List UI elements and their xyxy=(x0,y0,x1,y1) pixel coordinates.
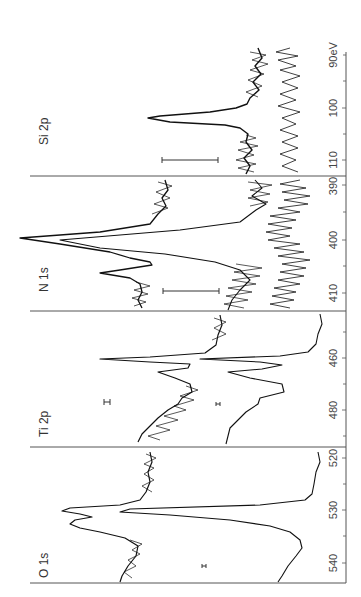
tick-520: 520 xyxy=(327,449,339,467)
label-ti2p: Ti 2p xyxy=(37,410,51,437)
label-o1s: O 1s xyxy=(37,553,51,578)
tick-90: 90eV xyxy=(327,41,339,67)
ti2p-upper-noise xyxy=(148,318,226,440)
panel-labels: Si 2p N 1s Ti 2p O 1s xyxy=(37,117,51,578)
n1s-middle-noise xyxy=(224,182,272,308)
o1s-upper-noise xyxy=(124,454,156,578)
tick-110: 110 xyxy=(327,151,339,169)
o1s-lower xyxy=(120,452,320,582)
tick-540: 540 xyxy=(327,554,339,572)
tick-530: 530 xyxy=(327,501,339,519)
xps-spectra-figure: 90eV 100 110 390 400 410 460 480 520 530… xyxy=(0,0,361,597)
spectra xyxy=(20,48,322,582)
label-n1s: N 1s xyxy=(37,267,51,292)
tick-100: 100 xyxy=(327,99,339,117)
tick-400: 400 xyxy=(327,231,339,249)
si2p-lower xyxy=(276,48,300,172)
o1s-upper xyxy=(62,452,152,582)
si2p-upper-noise xyxy=(236,52,268,172)
panel-dividers xyxy=(30,176,346,583)
n1s-bottom xyxy=(266,180,310,308)
tick-labels: 90eV 100 110 390 400 410 460 480 520 530… xyxy=(327,41,339,572)
ti2p-upper xyxy=(100,315,222,442)
energy-axis xyxy=(342,52,346,583)
tick-390: 390 xyxy=(327,177,339,195)
si2p-upper xyxy=(148,48,262,174)
tick-460: 460 xyxy=(327,349,339,367)
tick-410: 410 xyxy=(327,284,339,302)
n1s-top-noise xyxy=(132,182,172,306)
tick-480: 480 xyxy=(327,401,339,419)
label-si2p: Si 2p xyxy=(37,117,51,145)
